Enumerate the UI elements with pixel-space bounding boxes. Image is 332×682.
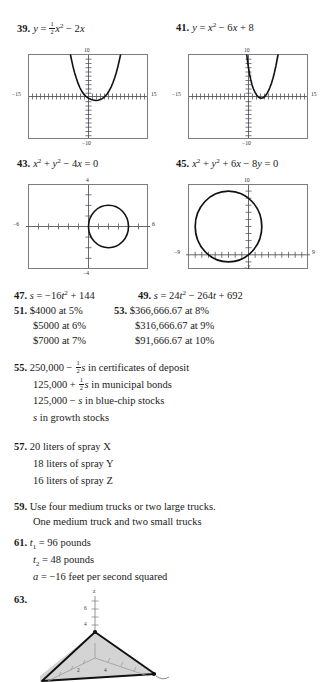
exercise-55-number: 55. [14, 362, 27, 373]
e55-l4-post: in growth stocks [40, 412, 109, 423]
graph-43-ylabel-bottom: −4 [83, 270, 89, 276]
graph-39-ylabel-bottom: −10 [82, 140, 91, 146]
exercise-41-number: 41. [176, 22, 189, 33]
exercise-45-heading: 45.x2 + y2 + 6x − 8y = 0 [176, 157, 278, 171]
exercise-57-line-1: 20 liters of spray X [30, 441, 111, 452]
exercise-53-line-3-row: $91,666.67 at 10% [135, 334, 214, 348]
figure-63-x-tick-2: 2 [77, 667, 80, 673]
exercise-49-row: 49. s = 24t2 − 264t + 692 [138, 289, 243, 303]
exercise-39-heading: 39.y = 12x2 − 2x [17, 21, 85, 35]
e61-l3-var: a [33, 571, 38, 582]
figure-63-z-tick-4: 4 [84, 621, 87, 627]
exercise-55-line-4-row: s in growth stocks [33, 411, 109, 425]
exercise-63-number: 63. [14, 594, 27, 605]
answer-key-page: 39.y = 12x2 − 2x 41.y = x2 − 6x + 8 [0, 0, 332, 682]
figure-63-x-tick-4: 4 [104, 667, 107, 673]
graph-43-ylabel-top: 4 [86, 177, 89, 183]
exercise-41-equation: y = x2 − 6x + 8 [192, 22, 254, 33]
e61-l3-eq: = [41, 571, 47, 582]
exercise-53-line-2: $316,666.67 at 9% [135, 320, 214, 331]
exercise-61-line-3-row: a = −16 feet per second squared [33, 570, 167, 584]
exercise-43-heading: 43.x2 + y2 − 4x = 0 [17, 157, 98, 171]
graph-39-plot [12, 48, 162, 148]
exercise-51-line-2: $5000 at 6% [33, 320, 86, 331]
exercise-57-line-3: 16 liters of spray Z [33, 475, 113, 486]
graph-43-xlabel-left: −6 [13, 221, 19, 227]
exercise-61-line-2-row: t2 = 48 pounds [33, 553, 94, 567]
e61-l2-value: 48 pounds [51, 554, 94, 565]
e55-l1-var: s [81, 362, 85, 373]
figure-63-z-tick-6: 6 [84, 605, 87, 611]
exercise-47-row: 47. s = −16t2 + 144 [14, 289, 95, 303]
exercise-59-line-1: Use four medium trucks or two large truc… [30, 501, 216, 512]
e55-l2-den: 2 [79, 385, 84, 392]
exercise-61-number: 61. [14, 537, 27, 548]
exercise-57-line-3-row: 16 liters of spray Z [33, 474, 113, 488]
graph-39-xlabel-right: 15 [151, 91, 157, 97]
exercise-47-number: 47. [14, 290, 27, 301]
exercise-61-row: 61. t1 = 96 pounds [14, 536, 91, 550]
graph-41-xlabel-left: −15 [172, 91, 181, 97]
e55-l3-op: − [70, 395, 76, 406]
exercise-59-row: 59. Use four medium trucks or two large … [14, 500, 216, 514]
graph-43: −6 6 4 −4 [12, 178, 162, 280]
exercise-59-line-2-row: One medium truck and two small trucks [33, 515, 202, 529]
graph-45: −9 9 10 −2 [172, 178, 324, 280]
exercise-57-number: 57. [14, 441, 27, 452]
e55-l1-pre: 250,000 [30, 362, 64, 373]
exercise-49-number: 49. [138, 290, 151, 301]
exercise-55-line-4: s in growth stocks [33, 412, 109, 423]
exercise-55-line-2: 125,000 + 12s in municipal bonds [33, 379, 172, 390]
exercise-59-number: 59. [14, 501, 27, 512]
exercise-55-row: 55. 250,000 − 12s in certificates of dep… [14, 360, 189, 374]
figure-63: z 6 4 2 4 [40, 588, 240, 682]
exercise-41-heading: 41.y = x2 − 6x + 8 [176, 21, 254, 35]
graph-45-xlabel-right: 9 [312, 249, 315, 255]
e55-l1-den: 2 [76, 368, 81, 375]
exercise-53-number: 53. [114, 305, 127, 316]
exercise-61-line-1: t1 = 96 pounds [30, 537, 91, 548]
e61-l2-sub: 2 [36, 560, 39, 567]
graph-43-xlabel-right: 6 [152, 221, 155, 227]
exercise-47-answer: s = −16t2 + 144 [30, 290, 95, 301]
exercise-39-equation: y = 12x2 − 2x [33, 23, 84, 34]
graph-39-xlabel-left: −15 [12, 91, 21, 97]
exercise-55-line-3: 125,000 − s in blue-chip stocks [33, 395, 164, 406]
e55-l2-var: s [85, 379, 89, 390]
exercise-53-line-2-row: $316,666.67 at 9% [135, 319, 214, 333]
exercise-57-line-2: 18 liters of spray Y [33, 458, 114, 469]
e61-l2-eq: = [42, 554, 48, 565]
exercise-51-line-3-row: $7000 at 7% [33, 334, 86, 348]
e55-l3-post: in blue-chip stocks [85, 395, 164, 406]
e61-l3-value: −16 feet per second squared [49, 571, 167, 582]
e55-l4-var: s [33, 412, 37, 423]
exercise-51-row: 51. $4000 at 5% [14, 304, 83, 318]
exercise-39-number: 39. [17, 23, 30, 34]
exercise-51-line-1: $4000 at 5% [30, 305, 83, 316]
e61-l1-sub: 1 [33, 543, 36, 550]
graph-39: −15 15 10 −10 [12, 48, 162, 148]
exercise-53-row: 53. $366,666.67 at 8% [114, 304, 209, 318]
e55-l1-op: − [67, 362, 73, 373]
figure-63-z-axis-label: z [93, 588, 95, 594]
e61-l1-eq: = [39, 537, 45, 548]
graph-41: −15 15 10 −10 [172, 48, 322, 148]
exercise-59-line-2: One medium truck and two small trucks [33, 516, 202, 527]
e55-l2-op: + [70, 379, 76, 390]
e55-l3-var: s [78, 395, 82, 406]
exercise-55-line-3-row: 125,000 − s in blue-chip stocks [33, 394, 164, 408]
exercise-57-line-2-row: 18 liters of spray Y [33, 457, 114, 471]
exercise-53-line-1: $366,666.67 at 8% [130, 305, 209, 316]
exercise-43-number: 43. [17, 158, 30, 169]
figure-63-plot [40, 588, 240, 682]
exercise-63-row: 63. [14, 594, 27, 605]
e55-l2-pre: 125,000 [33, 379, 67, 390]
exercise-51-line-2-row: $5000 at 6% [33, 319, 86, 333]
exercise-55-line-1: 250,000 − 12s in certificates of deposit [30, 362, 189, 373]
exercise-53-line-3: $91,666.67 at 10% [135, 335, 214, 346]
e61-l1-value: 96 pounds [47, 537, 90, 548]
exercise-61-line-3: a = −16 feet per second squared [33, 571, 167, 582]
e55-l3-pre: 125,000 [33, 395, 67, 406]
graph-41-plot [172, 48, 322, 148]
graph-41-ylabel-bottom: −10 [242, 140, 251, 146]
